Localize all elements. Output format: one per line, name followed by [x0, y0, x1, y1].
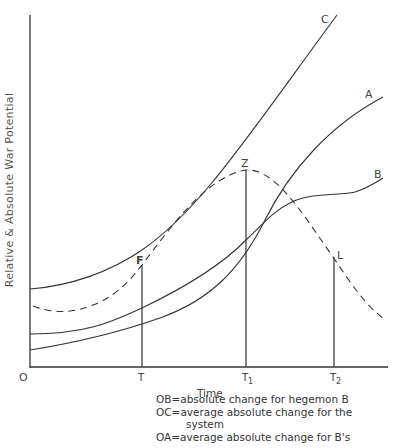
- point-label-z: Z: [241, 157, 249, 170]
- point-label-l: L: [337, 249, 344, 262]
- legend-item-ob: OB=absolute change for hegemon B: [156, 393, 352, 406]
- legend-item-oc: OC=average absolute change for the: [156, 406, 352, 419]
- curve-label-b: B: [374, 168, 382, 181]
- y-axis-label: Relative & Absolute War Potential: [3, 93, 16, 288]
- relative-dashed-curve: [33, 170, 383, 318]
- point-label-f: F: [136, 254, 144, 267]
- origin-label: O: [19, 371, 28, 384]
- legend-item-oc-continuation: system: [156, 418, 352, 431]
- tick-label-t: T: [137, 372, 145, 383]
- curve-b: [30, 178, 383, 334]
- curve-a: [30, 97, 383, 350]
- tick-label-t2: T2: [329, 372, 341, 386]
- diagram-figure: C A B F Z L O T T1 T2 Time Relative & Ab…: [0, 0, 399, 448]
- diagram-canvas: C A B F Z L O T T1 T2 Time: [0, 0, 399, 448]
- curve-label-c: C: [321, 13, 329, 26]
- legend-item-oa: OA=average absolute change for B's: [156, 431, 352, 444]
- curve-c: [30, 15, 337, 289]
- curve-label-a: A: [365, 88, 373, 101]
- legend: OB=absolute change for hegemon B OC=aver…: [156, 393, 352, 443]
- tick-label-t1: T1: [241, 372, 253, 386]
